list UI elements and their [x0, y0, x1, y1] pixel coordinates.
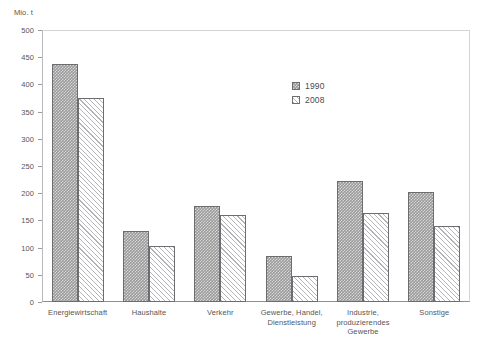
bar-2008-5	[434, 226, 460, 302]
y-axis-tick-label: 350	[2, 108, 34, 117]
legend-label-2008: 2008	[305, 95, 325, 105]
legend: 1990 2008	[292, 80, 325, 108]
bar-1990-2	[194, 206, 220, 302]
y-axis-tick-label: 200	[2, 189, 34, 198]
y-axis-tick-label: 450	[2, 53, 34, 62]
bar-1990-3	[266, 256, 292, 302]
bar-2008-3	[292, 276, 318, 302]
y-axis-tick-label: 500	[2, 26, 34, 35]
legend-item-1990: 1990	[292, 80, 325, 91]
y-axis-tick-label: 150	[2, 216, 34, 225]
legend-item-2008: 2008	[292, 94, 325, 105]
bar-2008-0	[78, 98, 104, 302]
bar-2008-4	[363, 213, 389, 302]
x-axis-label-line: produzierendes	[318, 318, 408, 328]
bar-2008-1	[149, 246, 175, 302]
bar-2008-2	[220, 215, 246, 302]
x-axis-label-line: Gewerbe	[318, 327, 408, 337]
bar-1990-5	[408, 192, 434, 302]
x-axis-label-line: Sonstige	[389, 308, 479, 318]
y-axis-tick-label: 100	[2, 244, 34, 253]
legend-swatch-1990-icon	[292, 82, 300, 90]
x-axis-label-5: Sonstige	[389, 308, 479, 318]
y-axis-tick-label: 250	[2, 162, 34, 171]
y-axis-tick-label: 50	[2, 271, 34, 280]
bar-1990-0	[52, 64, 78, 302]
legend-label-1990: 1990	[305, 81, 325, 91]
y-axis-tick-label: 400	[2, 80, 34, 89]
bar-chart: Mio. t 500450400350300250200150100500 En…	[0, 0, 495, 342]
legend-swatch-2008-icon	[292, 96, 300, 104]
bar-1990-1	[123, 231, 149, 302]
y-axis-tick-mark	[38, 302, 42, 303]
bar-1990-4	[337, 181, 363, 302]
y-axis-tick-label: 0	[2, 298, 34, 307]
y-axis-tick-label: 300	[2, 135, 34, 144]
y-axis-unit-label: Mio. t	[14, 8, 33, 17]
bars-layer	[42, 30, 470, 302]
